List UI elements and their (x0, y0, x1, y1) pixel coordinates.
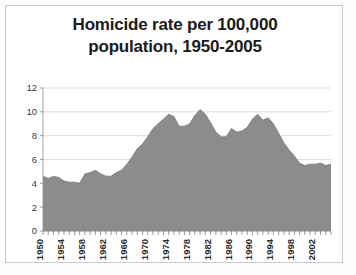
x-axis-label: 1962 (97, 239, 108, 260)
y-axis-label: 6 (32, 154, 37, 165)
x-axis-label: 1990 (243, 239, 254, 260)
x-axis-label: 1958 (76, 239, 87, 260)
y-axis-label: 8 (32, 130, 37, 141)
y-axis-label: 2 (32, 202, 37, 213)
y-axis-label: 12 (26, 82, 37, 93)
area-series-homicide-rate (43, 109, 331, 231)
x-axis-label: 1986 (223, 239, 234, 260)
chart-frame: Homicide rate per 100,000 population, 19… (5, 5, 343, 263)
x-axis-label: 1978 (181, 239, 192, 260)
x-axis-label: 1950 (34, 239, 45, 260)
y-axis-label: 10 (26, 106, 37, 117)
y-axis-label: 4 (32, 178, 37, 189)
x-axis-label: 2002 (306, 239, 317, 260)
plot-area: 0246810121950195419581962196619701974197… (6, 6, 344, 264)
x-axis-label: 1998 (285, 239, 296, 260)
x-axis-label: 1982 (202, 239, 213, 260)
x-axis-label: 1954 (55, 238, 66, 260)
x-axis-label: 1970 (139, 239, 150, 260)
x-axis-label: 1994 (264, 238, 275, 260)
x-axis-label: 1966 (118, 239, 129, 260)
area-chart-svg: 0246810121950195419581962196619701974197… (6, 6, 344, 264)
y-axis-label: 0 (32, 225, 37, 236)
x-axis-label: 1974 (160, 238, 171, 260)
